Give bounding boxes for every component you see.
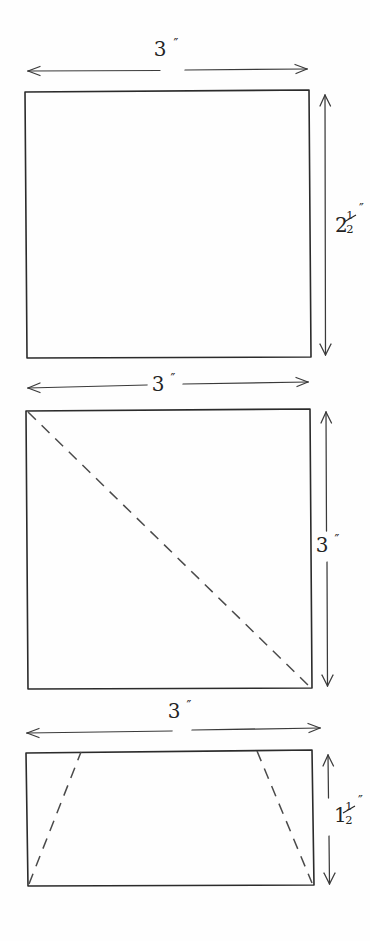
figure-top-height-dimension <box>320 95 331 355</box>
drawing-sheet: 3 ″ 2 1 2 ″ <box>0 0 370 941</box>
figure-middle-width-unit: ″ <box>171 371 176 386</box>
figure-bottom-width-value: 3 <box>168 699 181 723</box>
figure-middle: 3 ″ 3 ″ <box>26 371 340 689</box>
figure-middle-height-value: 3 <box>316 533 329 557</box>
figure-middle-width-dimension <box>28 378 308 393</box>
figure-bottom-right-taper-fold-line <box>257 751 312 883</box>
figure-bottom-height-unit: ″ <box>358 793 363 808</box>
figure-top-outline <box>25 90 311 358</box>
figure-top-width-label: 3 ″ <box>154 36 179 61</box>
figure-bottom-height-denominator: 2 <box>345 813 352 827</box>
figure-bottom-width-unit: ″ <box>187 698 192 713</box>
figure-top-width-value: 3 <box>154 37 167 61</box>
figure-top-height-label: 2 1 2 ″ <box>335 201 364 237</box>
figure-middle-width-label: 3 ″ <box>152 371 176 396</box>
figure-bottom-height-label: 1 1 2 ″ <box>334 793 363 827</box>
figure-top-height-denominator: 2 <box>346 222 353 236</box>
figure-middle-height-unit: ″ <box>335 532 340 547</box>
figure-bottom-outline <box>26 750 314 886</box>
figure-bottom-left-taper-fold-line <box>29 752 81 884</box>
figure-top: 3 ″ 2 1 2 ″ <box>25 36 364 358</box>
figure-middle-height-label: 3 ″ <box>316 532 340 557</box>
figure-top-width-dimension <box>28 65 307 76</box>
figure-middle-width-value: 3 <box>152 372 165 396</box>
figure-top-height-unit: ″ <box>359 201 364 216</box>
figure-top-width-unit: ″ <box>174 36 179 51</box>
figure-bottom: 3 ″ 1 1 2 ″ <box>26 698 363 886</box>
figure-middle-diagonal-fold-line <box>28 412 310 687</box>
figure-bottom-width-label: 3 ″ <box>168 698 192 723</box>
figure-bottom-width-dimension <box>27 724 320 738</box>
